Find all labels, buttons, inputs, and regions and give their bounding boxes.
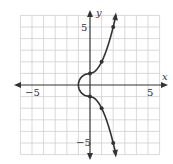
y-axis-down-arrow-icon — [87, 153, 93, 160]
data-point — [100, 106, 104, 110]
x-tick-pos5: 5 — [147, 87, 153, 98]
data-point — [88, 95, 92, 99]
y-tick-pos5: 5 — [81, 22, 87, 33]
y-tick-neg5: −5 — [76, 137, 91, 148]
data-point — [111, 141, 115, 145]
x-tick-neg5: −5 — [25, 87, 40, 98]
y-axis-label: y — [95, 7, 102, 18]
x-axis-left-arrow-icon — [14, 82, 21, 88]
x-axis-label: x — [162, 71, 168, 82]
data-point — [100, 60, 104, 64]
coordinate-plane: y x −5 5 5 −5 — [0, 0, 173, 164]
data-point — [88, 71, 92, 75]
y-axis-up-arrow-icon — [87, 10, 93, 17]
x-axis-right-arrow-icon — [161, 82, 168, 88]
data-point — [111, 25, 115, 29]
